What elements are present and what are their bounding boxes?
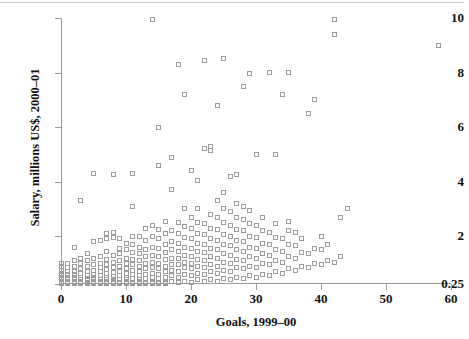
data-point: [104, 281, 109, 286]
data-point: [260, 228, 265, 233]
data-point: [215, 227, 220, 232]
data-point: [312, 261, 317, 266]
data-point: [221, 276, 226, 281]
data-point: [195, 257, 200, 262]
data-point: [202, 221, 207, 226]
data-point: [286, 242, 291, 247]
data-point: [117, 246, 122, 251]
data-point: [280, 92, 285, 97]
data-point: [91, 239, 96, 244]
data-point: [150, 253, 155, 258]
data-point: [163, 264, 168, 269]
data-point: [111, 279, 116, 284]
data-point: [234, 275, 239, 280]
data-point: [293, 268, 298, 273]
data-point: [137, 234, 142, 239]
data-point: [228, 277, 233, 282]
data-point: [143, 247, 148, 252]
data-point: [241, 239, 246, 244]
data-point: [98, 279, 103, 284]
data-point: [150, 271, 155, 276]
data-point: [306, 111, 311, 116]
data-point: [182, 260, 187, 265]
data-point: [267, 273, 272, 278]
data-point: [221, 56, 226, 61]
data-point: [234, 227, 239, 232]
data-point: [182, 253, 187, 258]
data-point: [286, 219, 291, 224]
data-point: [332, 32, 337, 37]
data-point: [91, 268, 96, 273]
data-point: [228, 269, 233, 274]
y-axis-title: Salary, millions US$, 2000–01: [28, 18, 43, 278]
data-point: [215, 238, 220, 243]
data-point: [143, 261, 148, 266]
data-point: [169, 279, 174, 284]
x-tick-label: 0: [41, 292, 81, 305]
data-point: [234, 247, 239, 252]
data-point: [247, 208, 252, 213]
data-point: [189, 236, 194, 241]
data-point: [137, 258, 142, 263]
data-point: [267, 230, 272, 235]
data-point: [254, 256, 259, 261]
data-point: [221, 251, 226, 256]
data-point: [202, 258, 207, 263]
data-point: [182, 245, 187, 250]
data-point: [130, 242, 135, 247]
data-point: [273, 221, 278, 226]
data-point: [169, 268, 174, 273]
data-point: [299, 250, 304, 255]
data-point: [202, 250, 207, 255]
data-point: [273, 152, 278, 157]
data-point: [182, 206, 187, 211]
data-point: [156, 125, 161, 130]
data-point: [72, 264, 77, 269]
x-tick-label: 20: [171, 292, 211, 305]
data-point: [260, 272, 265, 277]
data-point: [117, 264, 122, 269]
data-point: [182, 279, 187, 284]
data-point: [111, 172, 116, 177]
data-point: [98, 261, 103, 266]
data-point: [234, 265, 239, 270]
data-point: [241, 84, 246, 89]
data-point: [169, 247, 174, 252]
data-point: [91, 281, 96, 286]
data-point: [182, 224, 187, 229]
data-point: [338, 215, 343, 220]
data-point: [59, 271, 64, 276]
data-point: [202, 232, 207, 237]
data-point: [247, 245, 252, 250]
data-point: [241, 217, 246, 222]
data-point: [228, 174, 233, 179]
data-point: [273, 269, 278, 274]
data-point: [241, 249, 246, 254]
data-point: [130, 204, 135, 209]
data-point: [150, 17, 155, 22]
data-point: [202, 242, 207, 247]
data-point: [182, 235, 187, 240]
data-point: [332, 260, 337, 265]
data-point: [189, 280, 194, 285]
data-point: [130, 268, 135, 273]
data-point: [150, 223, 155, 228]
data-point: [208, 262, 213, 267]
data-point: [156, 254, 161, 259]
data-point: [150, 260, 155, 265]
data-point: [202, 279, 207, 284]
x-tick-mark: [256, 284, 257, 290]
data-point: [260, 215, 265, 220]
data-point: [189, 266, 194, 271]
data-point: [215, 198, 220, 203]
data-point: [189, 261, 194, 266]
data-point: [163, 219, 168, 224]
data-point: [85, 258, 90, 263]
x-tick-label: 10: [106, 292, 146, 305]
data-point: [208, 144, 213, 149]
data-point: [241, 228, 246, 233]
data-point: [234, 257, 239, 262]
data-point: [117, 258, 122, 263]
data-point: [221, 190, 226, 195]
